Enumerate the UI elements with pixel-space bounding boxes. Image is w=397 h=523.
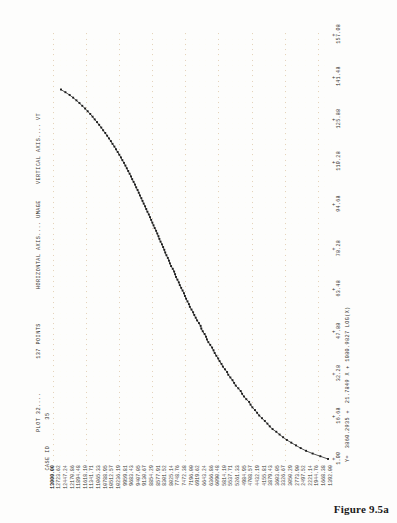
data-point [142,202,144,204]
data-point [215,355,217,357]
regression-equation: Y= 3860.2935 + 21.7849 X + 1080.9827 LOG… [345,22,351,462]
data-point [205,336,207,338]
y-axis-tick-label: 12447.24 [63,465,68,489]
y-axis-tick-label: 6919.62 [196,465,201,486]
data-curve [53,32,331,462]
data-point [168,259,170,261]
y-axis-tick-label: 9130.67 [143,465,148,486]
data-point [212,349,214,351]
y-axis-tick-label: 1668.38 [322,465,327,486]
data-point [149,216,151,218]
data-point [187,303,189,305]
data-point [234,384,236,386]
y-axis-tick-label: 10788.95 [103,465,108,489]
y-axis-tick-label: 11065.33 [97,465,102,489]
case-id-value: 35 [45,412,51,419]
y-axis-tick-label: 7196.00 [189,465,194,486]
y-axis-tick-label: 5537.71 [229,465,234,486]
plot-area: 13000.0012723.6212447.2412170.8611894.48… [53,32,331,462]
data-point [135,186,137,188]
data-point [186,300,188,302]
data-point [124,164,126,166]
data-point [241,393,243,395]
y-axis-tick-label: 10512.57 [110,465,115,489]
y-axis-tick-label: 6090.48 [216,465,221,486]
data-point [164,251,166,253]
data-point [128,173,130,175]
y-axis-tick-label: 3603.05 [275,465,280,486]
data-point [181,289,183,291]
y-axis-tick-label: 4708.57 [249,465,254,486]
data-point [125,167,127,169]
y-axis-tick-label: 8025.14 [169,465,174,486]
y-axis-tick-label: 1944.76 [315,465,320,486]
y-axis-tick-label: 11894.48 [77,465,82,489]
data-point [206,338,208,340]
data-point [161,243,163,245]
data-point [196,319,198,321]
x-axis-tick-label: 110.28 [336,151,342,171]
y-axis-tick-label: 9407.05 [136,465,141,486]
data-point [233,382,235,384]
x-axis-tick-label: 78.28 [336,240,342,257]
data-point [176,279,178,281]
data-point [111,143,113,145]
data-point [116,151,118,153]
y-axis-tick-label: 12170.86 [70,465,75,489]
data-point [127,170,129,172]
data-point [165,254,167,256]
data-point [185,298,187,300]
data-point [183,295,185,297]
data-point [194,317,196,319]
data-point [227,374,229,376]
x-axis-tick-label: 125.88 [336,108,342,128]
data-point [151,221,153,223]
data-point [153,227,155,229]
data-point [183,292,185,294]
data-point [173,270,175,272]
data-point [168,262,170,264]
y-axis-tick-label: 8577.91 [156,465,161,486]
data-point [131,178,133,180]
data-point [132,181,134,183]
y-axis-tick-label: 1392.00 [328,465,333,486]
x-axis-tick-label: 32.28 [336,365,342,382]
data-point [115,148,117,150]
data-point [190,308,192,310]
x-axis-tick-label: 157.08 [336,24,342,44]
x-axis-tick-labels: +1.00+16.68+32.28+47.88+63.48+78.28+94.6… [333,32,345,462]
y-axis-tick-label: 3326.67 [282,465,287,486]
data-point [162,246,164,248]
y-axis-tick-label: 7748.76 [176,465,181,486]
y-axis-tick-label: 9959.81 [123,465,128,486]
x-axis-tick-label: 1.00 [336,451,342,464]
data-point [201,330,203,332]
data-point [120,156,122,158]
data-point [130,175,132,177]
y-axis-tick-label: 4984.95 [242,465,247,486]
data-point [134,183,136,185]
data-point [193,314,195,316]
y-axis-tick-label: 6643.24 [202,465,207,486]
data-point [60,88,62,90]
y-axis-tick-label: 4155.81 [262,465,267,486]
data-point [192,311,194,313]
y-axis-tick-label: 6366.86 [209,465,214,486]
data-point [213,352,215,354]
y-axis-tick-label: 8854.29 [149,465,154,486]
data-point [156,232,158,234]
scanned-page: PLOT 32....137 POINTSHORIZONTAL AXIS....… [0,0,397,523]
y-axis-tick-label: 2497.52 [302,465,307,486]
data-point [136,189,138,191]
data-point [249,403,251,405]
data-point [218,360,220,362]
y-axis-tick-label: 10236.19 [116,465,121,489]
y-axis-tick-label: 5261.33 [236,465,241,486]
data-point [137,192,139,194]
data-point [121,159,123,161]
data-point [118,154,120,156]
data-point [145,208,147,210]
y-axis-tick-label: 13000.00 [50,465,55,489]
y-axis-tick-label: 7472.38 [183,465,188,486]
data-point [152,224,154,226]
